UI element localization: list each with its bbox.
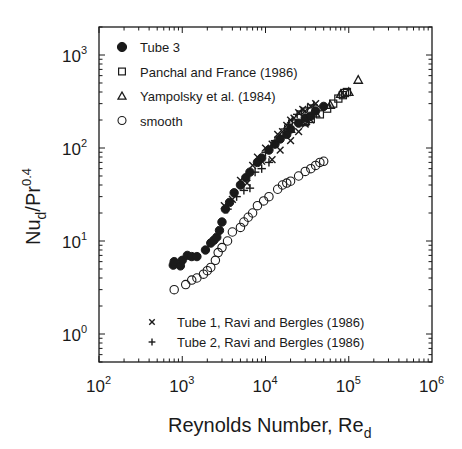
marker-open-circle — [265, 192, 273, 200]
marker-square — [119, 68, 126, 75]
x-tick-label: 102 — [86, 374, 111, 396]
series-filled-circle — [169, 102, 328, 270]
y-axis-label: Nud/Pr0.4 — [19, 168, 49, 245]
marker-x — [149, 319, 154, 324]
y-tick-label: 103 — [62, 44, 87, 66]
legend-item: Tube 3 — [117, 40, 180, 55]
legend-item: Tube 2, Ravi and Bergles (1986) — [149, 335, 365, 350]
marker-triangle — [118, 92, 126, 99]
marker-open-circle — [188, 276, 196, 284]
legend-lower: Tube 1, Ravi and Bergles (1986)Tube 2, R… — [149, 315, 365, 350]
marker-filled-circle — [193, 252, 201, 260]
legend-label: Tube 3 — [140, 40, 180, 55]
legend-item: smooth — [118, 114, 183, 129]
marker-open-circle — [170, 285, 178, 293]
data-points — [169, 76, 362, 294]
marker-x — [277, 147, 284, 154]
legend-label: Tube 2, Ravi and Bergles (1986) — [177, 335, 364, 350]
marker-filled-circle — [218, 218, 226, 226]
marker-triangle — [354, 76, 362, 84]
axis-labels: Reynolds Number, Red Nud/Pr0.4 — [19, 168, 371, 441]
legend-item: Yampolsky et al. (1984) — [118, 89, 276, 104]
marker-open-circle — [223, 237, 231, 245]
legend-label: Tube 1, Ravi and Bergles (1986) — [177, 315, 364, 330]
marker-open-circle — [259, 197, 267, 205]
y-tick-label: 100 — [62, 323, 87, 345]
legend-item: Tube 1, Ravi and Bergles (1986) — [149, 315, 364, 330]
marker-open-circle — [118, 117, 126, 125]
legend-upper: Tube 3Panchal and France (1986)Yampolsky… — [117, 40, 297, 129]
legend-item: Panchal and France (1986) — [119, 65, 298, 80]
y-tick-label: 102 — [62, 137, 87, 159]
chart-plot: 102103104105106100101102103 Tube 3Pancha… — [0, 0, 462, 449]
marker-plus — [149, 339, 156, 346]
legend-label: smooth — [140, 114, 183, 129]
x-tick-label: 103 — [169, 374, 194, 396]
marker-open-circle — [181, 280, 189, 288]
legend-label: Yampolsky et al. (1984) — [140, 89, 276, 104]
x-tick-label: 105 — [336, 374, 361, 396]
marker-open-circle — [228, 228, 236, 236]
chart-root: 102103104105106100101102103 Tube 3Pancha… — [0, 0, 462, 449]
x-axis-label: Reynolds Number, Red — [168, 414, 371, 441]
y-tick-label: 101 — [62, 230, 87, 252]
legend-label: Panchal and France (1986) — [140, 65, 298, 80]
marker-filled-circle — [117, 42, 126, 51]
marker-open-circle — [211, 256, 219, 264]
marker-x — [295, 128, 302, 135]
marker-filled-circle — [215, 226, 223, 234]
x-tick-label: 104 — [253, 374, 278, 396]
x-tick-label: 106 — [419, 374, 444, 396]
marker-x — [287, 137, 294, 144]
